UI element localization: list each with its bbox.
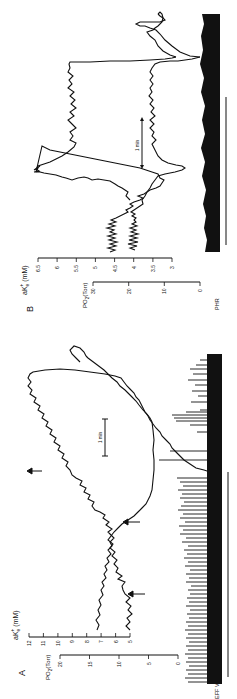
svg-text:8: 8 <box>84 640 90 643</box>
figure: A aKe+(mM) PO2(Torr) 12 11 10 9 8 7 6 5 <box>0 0 237 699</box>
panel-a-po2-tick-labels: 20 15 10 5 0 <box>57 661 181 667</box>
svg-text:6.5: 6.5 <box>35 265 41 272</box>
panel-a-scale-bar: 1 min <box>98 419 108 456</box>
panel-b-neural-trace <box>200 14 220 252</box>
svg-text:5: 5 <box>92 266 98 269</box>
panel-a-label: A <box>17 670 27 676</box>
panel-a-arrow-3 <box>27 468 42 474</box>
panel-a-ak-ticks <box>29 633 130 637</box>
panel-b-ak-trace <box>34 146 164 252</box>
svg-text:30: 30 <box>90 288 96 294</box>
panel-b-po2-ticks <box>93 282 200 286</box>
panel-a-arrow-1 <box>128 591 145 597</box>
panel-a-po2-ticks <box>60 655 178 659</box>
svg-text:15: 15 <box>87 661 93 667</box>
panel-b-label: B <box>25 306 35 312</box>
svg-text:10: 10 <box>55 640 61 646</box>
svg-text:10: 10 <box>161 288 167 294</box>
svg-text:4.5: 4.5 <box>112 265 118 272</box>
panel-b-po2-tick-labels: 30 20 10 0 <box>90 288 203 294</box>
panel-a-ak-trace <box>28 369 214 630</box>
svg-text:PO2(Torr): PO2(Torr) <box>82 282 90 308</box>
panel-b-po2-trace-end <box>136 12 200 57</box>
panel-a-po2-axis-title: PO2(Torr) <box>45 654 53 680</box>
svg-text:1 min: 1 min <box>98 431 103 443</box>
svg-text:6: 6 <box>54 266 60 269</box>
panel-a: A aKe+(mM) PO2(Torr) 12 11 10 9 8 7 6 5 <box>9 346 228 699</box>
panel-b-ak-axis-title: aKe+(mM) <box>18 265 30 295</box>
svg-text:10: 10 <box>116 661 122 667</box>
panel-b-ak-tick-labels: 6.5 6 5.5 5 4.5 4 3.5 3 <box>35 265 175 272</box>
panel-a-ak-tick-labels: 12 11 10 9 8 7 6 5 <box>26 640 133 646</box>
panel-a-po2-trace <box>86 356 154 630</box>
panel-b-po2-axis-title: PO2(Torr) <box>82 282 90 308</box>
svg-text:6: 6 <box>113 640 119 643</box>
panel-b-ak-trace-main <box>34 57 176 200</box>
svg-text:3.5: 3.5 <box>150 265 156 272</box>
svg-text:7: 7 <box>98 640 104 643</box>
svg-text:5: 5 <box>127 640 133 643</box>
svg-text:4: 4 <box>131 266 137 269</box>
panel-b-ak-ticks <box>38 258 172 262</box>
panel-a-neural-label: EFF VAG <box>214 676 220 699</box>
panel-b-scale-bar: 1 min <box>135 117 144 169</box>
svg-text:12: 12 <box>26 640 32 646</box>
panel-a-po2-trace-end <box>70 346 86 362</box>
svg-text:9: 9 <box>69 640 75 643</box>
svg-text:11: 11 <box>40 641 46 646</box>
svg-text:aKe+(mM): aKe+(mM) <box>18 265 30 295</box>
svg-text:5.5: 5.5 <box>73 265 79 272</box>
panel-b: B aKe+(mM) PO2(Torr) 6.5 6 5.5 5 4.5 4 3… <box>18 12 226 312</box>
svg-text:5: 5 <box>146 662 152 665</box>
panel-b-neural-label: PHR <box>214 298 220 310</box>
svg-text:aKe+(mM): aKe+(mM) <box>9 610 21 640</box>
svg-text:0: 0 <box>197 289 203 292</box>
svg-text:3: 3 <box>169 266 175 269</box>
panel-a-arrow-2 <box>123 519 140 525</box>
svg-text:PO2(Torr): PO2(Torr) <box>45 654 53 680</box>
svg-text:20: 20 <box>126 288 132 294</box>
svg-text:0: 0 <box>175 662 181 665</box>
svg-text:1 min: 1 min <box>135 139 140 151</box>
panel-a-neural-trace <box>159 354 222 684</box>
panel-b-po2-trace <box>128 57 200 250</box>
svg-text:20: 20 <box>57 661 63 667</box>
panel-a-ak-axis-title: aKe+(mM) <box>9 610 21 640</box>
